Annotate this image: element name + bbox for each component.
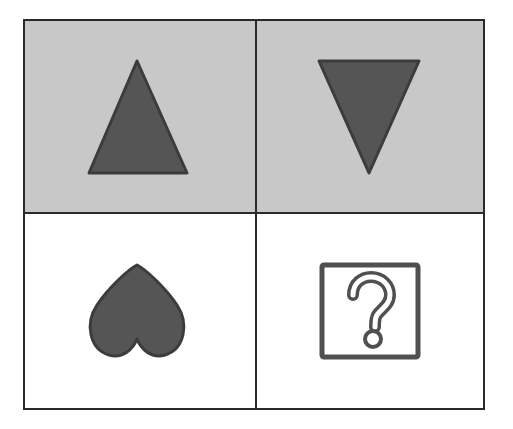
puzzle-grid [23,19,485,410]
triangle-up-icon [85,57,195,177]
cell-bottom-right [257,214,483,408]
triangle-down-icon [315,57,425,177]
cell-top-left [25,21,257,214]
inverted-heart-icon [85,261,195,361]
question-mark-box-icon [318,261,422,361]
cell-top-right [257,21,483,214]
cell-bottom-left [25,214,257,408]
